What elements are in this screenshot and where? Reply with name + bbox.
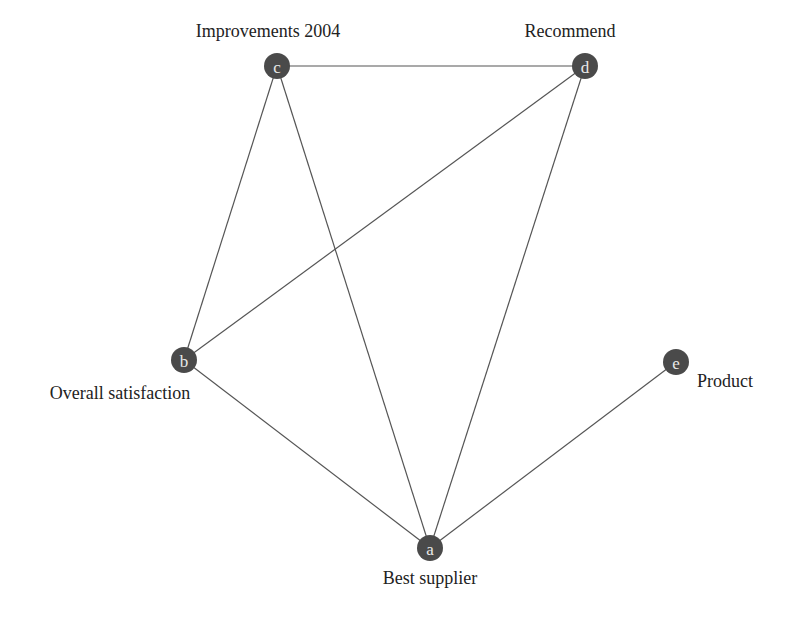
node-e: eProduct xyxy=(663,349,753,391)
edge-d-b xyxy=(184,66,585,360)
node-label: Overall satisfaction xyxy=(50,383,190,403)
node-letter: a xyxy=(426,540,434,559)
node-a: aBest supplier xyxy=(383,535,478,588)
node-letter: d xyxy=(581,58,590,77)
node-label: Recommend xyxy=(525,21,616,41)
node-letter: c xyxy=(273,58,281,77)
node-label: Improvements 2004 xyxy=(196,21,340,41)
edge-c-b xyxy=(184,66,277,360)
node-d: dRecommend xyxy=(525,21,616,79)
nodes-layer: aBest supplierbOverall satisfactioncImpr… xyxy=(50,21,753,588)
edge-b-a xyxy=(184,360,430,548)
edge-d-a xyxy=(430,66,585,548)
node-c: cImprovements 2004 xyxy=(196,21,340,79)
node-label: Best supplier xyxy=(383,568,478,588)
edge-e-a xyxy=(430,362,676,548)
edge-c-a xyxy=(277,66,430,548)
network-diagram: aBest supplierbOverall satisfactioncImpr… xyxy=(0,0,792,621)
node-letter: e xyxy=(672,354,680,373)
node-b: bOverall satisfaction xyxy=(50,347,197,403)
edges-layer xyxy=(184,66,676,548)
node-letter: b xyxy=(180,352,189,371)
node-label: Product xyxy=(697,371,753,391)
